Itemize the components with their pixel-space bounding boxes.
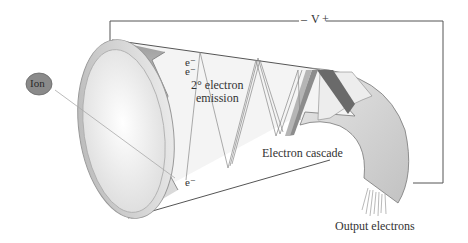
ion-label: Ion xyxy=(30,78,45,89)
diagram-graphic xyxy=(0,0,468,243)
secondary-emission-label-line2: emission xyxy=(196,92,239,104)
electron-cascade-label: Electron cascade xyxy=(262,147,343,159)
voltage-minus-sign: – xyxy=(301,13,307,25)
voltage-label: V xyxy=(311,13,320,25)
output-electron-rays xyxy=(362,188,386,216)
output-electrons-label: Output electrons xyxy=(335,220,415,232)
electron-multiplier-diagram: – V + Ion e⁻ e⁻ 2° electron emission e⁻ … xyxy=(0,0,468,243)
voltage-plus-sign: + xyxy=(322,13,329,25)
electron-label-2: e⁻ xyxy=(185,66,196,77)
secondary-emission-label-line1: 2° electron xyxy=(191,79,243,91)
electron-label-3: e⁻ xyxy=(185,177,196,188)
